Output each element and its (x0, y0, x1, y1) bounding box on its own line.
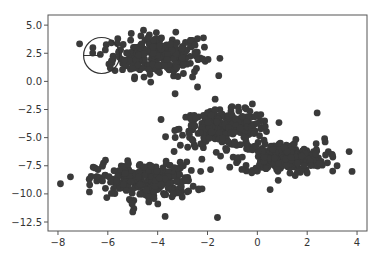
data-point (231, 141, 238, 148)
data-point (143, 186, 150, 193)
data-point (283, 162, 290, 169)
data-point (131, 75, 138, 82)
data-point (271, 155, 278, 162)
data-point (189, 73, 196, 80)
data-point (102, 185, 109, 192)
data-point (312, 151, 319, 158)
data-point (148, 163, 155, 170)
data-point (171, 164, 178, 171)
data-point (124, 50, 131, 57)
x-tick-label: 4 (354, 237, 360, 248)
data-point (329, 168, 336, 175)
data-point (228, 111, 235, 118)
data-point (226, 164, 233, 171)
data-point (298, 153, 305, 160)
data-point (194, 35, 201, 42)
data-point (177, 142, 184, 149)
data-point (153, 168, 160, 175)
data-point (237, 125, 244, 132)
y-tick-label: −10.0 (11, 188, 42, 199)
data-point (153, 29, 160, 36)
data-point (214, 214, 221, 221)
data-point (138, 40, 145, 47)
y-axis-ticks: 5.02.50.0−2.5−5.0−7.5−10.0−12.5 (11, 20, 48, 228)
data-point (76, 40, 83, 47)
data-point (150, 50, 157, 57)
data-point (212, 106, 219, 113)
y-tick-label: −7.5 (18, 160, 42, 171)
data-point (233, 159, 240, 166)
data-point (107, 179, 114, 186)
data-point (183, 177, 190, 184)
data-point (261, 154, 268, 161)
data-point (156, 175, 163, 182)
data-point (217, 153, 224, 160)
data-point (208, 112, 215, 119)
data-point (235, 104, 242, 111)
data-point (125, 161, 132, 168)
data-point (238, 166, 245, 173)
data-point (135, 174, 142, 181)
data-point (120, 181, 127, 188)
data-point (180, 162, 187, 169)
data-point (205, 119, 212, 126)
scatter-chart: −8−6−4−2024 5.02.50.0−2.5−5.0−7.5−10.0−1… (0, 0, 383, 263)
data-point (129, 201, 136, 208)
data-point (172, 29, 179, 36)
data-point (158, 35, 165, 42)
y-tick-label: −12.5 (11, 217, 42, 228)
data-point (262, 141, 269, 148)
data-point (253, 143, 260, 150)
data-point (313, 140, 320, 147)
data-point (199, 55, 206, 62)
y-tick-label: 2.5 (26, 48, 42, 59)
x-tick-label: 2 (304, 237, 310, 248)
data-point (141, 163, 148, 170)
data-point (89, 44, 96, 51)
data-point (135, 52, 142, 59)
y-tick-label: −2.5 (18, 104, 42, 115)
x-tick-label: −4 (150, 237, 165, 248)
data-point (103, 194, 110, 201)
data-point (287, 170, 294, 177)
data-point (269, 146, 276, 153)
data-point (185, 187, 192, 194)
data-point (262, 123, 269, 130)
data-point (156, 43, 163, 50)
data-point (229, 103, 236, 110)
data-point (113, 178, 120, 185)
data-point (122, 170, 129, 177)
data-point (322, 152, 329, 159)
data-point (86, 189, 93, 196)
data-point (173, 64, 180, 71)
data-point (127, 37, 134, 44)
data-point (120, 41, 127, 48)
data-point (252, 113, 259, 120)
data-point (86, 181, 93, 188)
data-point (190, 137, 197, 144)
data-point (135, 62, 142, 69)
data-point (192, 49, 199, 56)
data-point (150, 37, 157, 44)
data-point (136, 191, 143, 198)
data-point (324, 159, 331, 166)
data-point (172, 90, 179, 97)
data-point (249, 100, 256, 107)
data-point (192, 42, 199, 49)
data-point (275, 177, 282, 184)
data-point (316, 160, 323, 167)
data-point (162, 213, 169, 220)
x-tick-label: 0 (254, 237, 260, 248)
data-point (321, 135, 328, 142)
data-point (151, 195, 158, 202)
data-point (207, 166, 214, 173)
data-point (99, 177, 106, 184)
data-point (128, 30, 135, 37)
data-point (349, 168, 356, 175)
data-point (57, 180, 64, 187)
data-point (167, 41, 174, 48)
data-point (180, 61, 187, 68)
data-point (198, 156, 205, 163)
data-point (129, 208, 136, 215)
data-point (121, 57, 128, 64)
